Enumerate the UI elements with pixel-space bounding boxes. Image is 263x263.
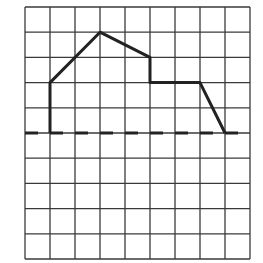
grid-diagram [0,0,263,263]
